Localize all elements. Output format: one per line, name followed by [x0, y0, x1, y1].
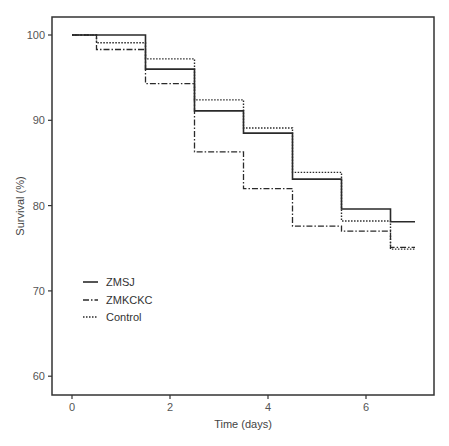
curve-zmkckc	[72, 35, 415, 247]
y-axis-title: Survival (%)	[14, 176, 26, 235]
curve-control	[72, 35, 415, 249]
legend-label: ZMSJ	[106, 276, 135, 288]
x-tick-label: 0	[69, 401, 75, 413]
legend: ZMSJZMKCKCControl	[83, 276, 153, 323]
y-tick-label: 100	[27, 29, 45, 41]
y-tick-label: 90	[33, 114, 45, 126]
y-tick-label: 70	[33, 285, 45, 297]
survival-curves	[72, 35, 415, 249]
x-axis-ticks: 0246	[69, 395, 369, 413]
x-tick-label: 2	[167, 401, 173, 413]
y-tick-label: 60	[33, 370, 45, 382]
x-tick-label: 4	[265, 401, 271, 413]
x-axis-title: Time (days)	[214, 418, 272, 430]
x-tick-label: 6	[363, 401, 369, 413]
survival-chart: 60708090100 0246 Time (days) Survival (%…	[0, 0, 449, 446]
y-tick-label: 80	[33, 200, 45, 212]
plot-frame	[52, 17, 434, 395]
y-axis-ticks: 60708090100	[27, 29, 52, 382]
legend-label: ZMKCKC	[106, 294, 153, 306]
legend-label: Control	[106, 311, 141, 323]
